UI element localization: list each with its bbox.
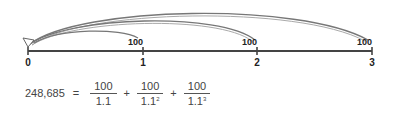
- tick-label: 3: [369, 57, 375, 68]
- discount-arcs: [30, 13, 368, 45]
- exponent: 3: [203, 96, 206, 102]
- fraction-term-3: 100 1.13: [184, 80, 210, 107]
- cash-flow-label: 100: [242, 37, 257, 47]
- present-value-formula: 248,685 = 100 1.1 + 100 1.12 + 100 1.13: [25, 78, 215, 108]
- denominator: 1.1: [96, 94, 111, 107]
- arrow-head-icon: [23, 38, 34, 47]
- equals-sign: =: [73, 87, 79, 99]
- arc-period-3-inner: [32, 16, 365, 45]
- numerator: 100: [90, 80, 116, 94]
- fraction-term-1: 100 1.1: [90, 80, 116, 107]
- numerator: 100: [184, 80, 210, 94]
- plus-sign: +: [170, 87, 176, 99]
- present-value: 248,685: [25, 87, 65, 99]
- arc-period-1: [34, 31, 138, 43]
- tick-label: 1: [140, 57, 146, 68]
- numerator: 100: [137, 80, 163, 94]
- tick-label: 0: [25, 57, 31, 68]
- exponent: 2: [156, 96, 159, 102]
- denominator: 1.13: [188, 94, 207, 107]
- fraction-term-2: 100 1.12: [137, 80, 163, 107]
- timeline-diagram: [0, 0, 394, 70]
- plus-sign: +: [124, 87, 130, 99]
- cash-flow-label: 100: [357, 37, 372, 47]
- cash-flow-label: 100: [128, 37, 143, 47]
- tick-label: 2: [254, 57, 260, 68]
- denominator: 1.12: [141, 94, 160, 107]
- arc-period-3: [30, 13, 368, 44]
